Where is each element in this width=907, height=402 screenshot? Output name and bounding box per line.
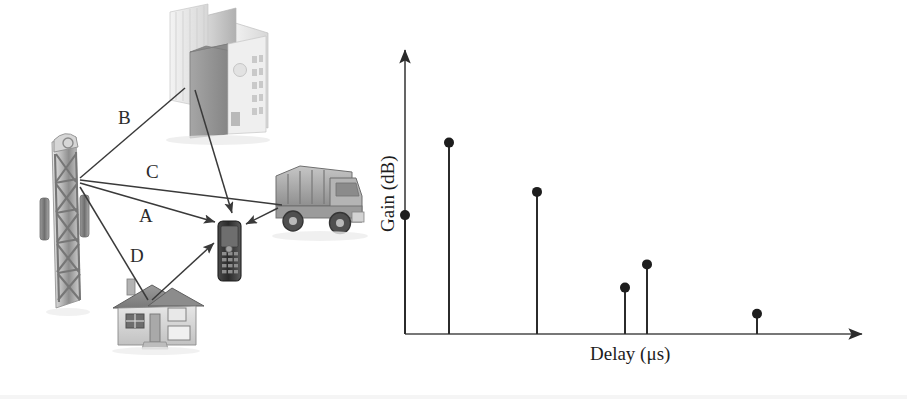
stem-marker [532, 187, 542, 197]
stem-marker [444, 138, 454, 148]
ray-b-uplink [80, 88, 185, 178]
multipath-propagation-scene: B C A D [0, 0, 380, 370]
mobile-phone-icon [218, 221, 241, 281]
house-icon [112, 279, 204, 355]
power-delay-profile-chart: Gain (dB) Delay (μs) [370, 0, 907, 402]
stem-marker [752, 309, 762, 319]
path-label-a: A [139, 206, 153, 225]
ray-d-uplink [80, 187, 148, 300]
y-axis-label: Gain (dB) [378, 155, 397, 232]
figure-root: B C A D Gain (dB) Delay (μs) [0, 0, 907, 402]
ray-d-downlink [152, 243, 214, 300]
path-label-d: D [130, 246, 144, 265]
path-label-b: B [118, 108, 131, 127]
path-label-c: C [146, 162, 159, 181]
stem-plot-graphic [370, 0, 907, 402]
stem-marker [400, 210, 410, 220]
ray-c-downlink [246, 208, 278, 224]
cell-tower-icon [40, 134, 90, 316]
office-building-icon [166, 4, 270, 145]
stem-marker [642, 259, 652, 269]
caption-rule [0, 395, 907, 399]
stem-marker [620, 283, 630, 293]
stem-series [400, 138, 762, 334]
dump-truck-icon [272, 166, 368, 241]
scene-graphic [0, 0, 380, 370]
x-axis-label: Delay (μs) [590, 344, 670, 363]
